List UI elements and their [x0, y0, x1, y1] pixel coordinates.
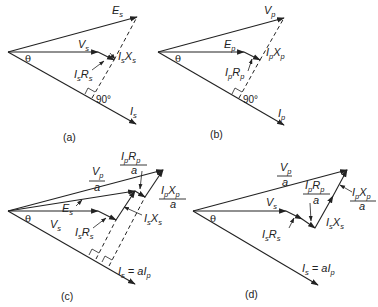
label-theta-c: θ	[25, 213, 31, 224]
right-angle-marker	[85, 88, 95, 94]
label-is-rs: IsRs	[74, 68, 93, 83]
is-rs-arrow-d	[286, 211, 302, 219]
panel-b: Vp Ep IpXp IpRp Ip θ 90° (b)	[158, 4, 285, 140]
label-iprp-denominator-d: a	[313, 194, 319, 206]
label-es-c: Es	[62, 202, 73, 217]
label-90-degrees-b: 90°	[243, 94, 258, 105]
label-is-xs: IsXs	[118, 50, 136, 65]
label-theta-d: θ	[210, 213, 216, 224]
label-vs-d: Vs	[266, 196, 277, 211]
label-theta: θ	[25, 53, 31, 64]
label-ep: Ep	[224, 38, 236, 53]
label-ip-xp: IpXp	[266, 46, 285, 61]
label-vp: Vp	[264, 4, 276, 19]
label-isxs-d: IsXs	[326, 216, 344, 231]
label-iprp-numerator: IpRp	[121, 150, 140, 165]
label-ipxp-numerator: IpXp	[161, 184, 180, 199]
label-ipxp-denominator-d: a	[359, 200, 365, 212]
caption-c: (c)	[61, 290, 73, 302]
label-ipxp-denominator: a	[170, 198, 176, 210]
label-ip: Ip	[278, 107, 285, 122]
panel-a: Es Vs IsXs IsRs Is θ 90° (a)	[8, 4, 137, 143]
label-vs-c: Vs	[50, 218, 61, 233]
label-vp-denominator: a	[94, 181, 100, 193]
vp-over-a-arrow	[8, 170, 163, 211]
label-iprp-denominator: a	[131, 164, 137, 176]
perpendicular-dashed-line	[92, 60, 114, 98]
is-rs-pointer	[92, 61, 104, 70]
is-rs-pointer-c	[93, 218, 106, 228]
is-xs-arrow-c	[116, 191, 135, 220]
is-rs-arrow-c	[98, 211, 116, 220]
panel-c: Vp a IpRp a IpXp a Es Vs IsRs IsXs Is = …	[8, 150, 186, 302]
perpendicular-dashed-line-c1	[96, 220, 116, 259]
ip-rp-over-a-pointer-d	[310, 203, 311, 221]
is-rs-arrow	[98, 52, 114, 60]
label-isxs-c: IsXs	[144, 212, 162, 227]
caption-d: (d)	[245, 288, 258, 300]
right-angle-marker-b	[232, 88, 242, 94]
phasor-diagram-figure: Es Vs IsXs IsRs Is θ 90° (a) Vp Ep IpXp …	[0, 0, 378, 307]
ip-xp-over-a-pointer-d	[340, 185, 352, 192]
label-is-eq-aip-d: Is = aIp	[302, 262, 335, 277]
ip-rp-pointer	[248, 59, 252, 71]
ip-xp-over-a-arrow-d	[333, 170, 347, 196]
panel-d: Vp a IpRp a IpXp a Vs IsRs IsXs Is = aIp…	[193, 161, 376, 300]
label-theta-b: θ	[175, 53, 181, 64]
ip-rp-over-a-arrow-d	[302, 219, 315, 228]
ip-rp-arrow	[244, 52, 260, 60]
label-ipxp-numerator-d: IpXp	[352, 186, 371, 201]
es-pointer	[76, 200, 82, 206]
label-vp-denominator-d: a	[282, 176, 288, 188]
label-vp-numerator: Vp	[92, 165, 104, 180]
label-iprp-numerator-d: IpRp	[305, 179, 324, 194]
ip-rp-over-a-arrow	[135, 191, 145, 197]
label-es: Es	[112, 4, 123, 19]
label-isrs-c: IsRs	[75, 226, 94, 241]
label-is: Is	[130, 105, 137, 120]
label-ip-rp: IpRp	[225, 66, 244, 81]
right-angle-marker-c2	[102, 256, 112, 262]
perpendicular-dashed-line-c2	[109, 197, 145, 266]
caption-b: (b)	[210, 128, 223, 140]
right-angle-marker-c1	[89, 249, 99, 255]
es-phasor-arrow	[8, 17, 137, 52]
is-rs-pointer-d	[289, 218, 294, 228]
label-vp-numerator-d: Vp	[280, 161, 292, 176]
caption-a: (a)	[63, 131, 76, 143]
label-isrs-d: IsRs	[262, 228, 281, 243]
label-is-eq-aip-c: Is = aIp	[118, 265, 151, 280]
label-vs: Vs	[78, 38, 89, 53]
ip-rp-over-a-pointer	[140, 171, 142, 189]
label-90-degrees: 90°	[96, 94, 111, 105]
